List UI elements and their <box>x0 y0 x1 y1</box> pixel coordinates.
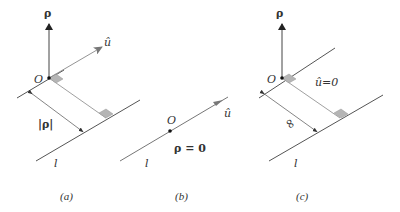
origin-label: O <box>267 73 276 86</box>
distance-label: |ρ| <box>38 118 53 131</box>
origin-point <box>168 129 172 133</box>
line-label: l <box>54 157 58 170</box>
u-label: û <box>104 36 111 49</box>
origin-label: O <box>34 73 43 86</box>
u-label: û <box>224 107 231 120</box>
u-arrow-icon <box>49 47 102 78</box>
caption-b: (b) <box>175 190 188 203</box>
condition-label: û=0 <box>315 76 338 89</box>
rho-label: ρ <box>44 7 51 20</box>
panel-a: ρ û O |ρ| l (a) <box>17 7 140 203</box>
panel-c: ρ O û=0 ∞ l (c) <box>259 7 383 203</box>
perpendicular-line <box>49 78 106 118</box>
right-angle-square-origin <box>49 74 63 83</box>
rho-label: ρ <box>276 7 283 20</box>
caption-a: (a) <box>60 190 73 203</box>
panel-b: O û ρ = 0 l (b) <box>120 97 231 203</box>
line-label: l <box>294 157 298 170</box>
origin-label: O <box>167 114 176 127</box>
origin-point <box>47 76 51 80</box>
line-label: l <box>145 157 149 170</box>
line-representation-diagram: ρ û O |ρ| l (a) O û ρ = 0 l (b) ρ O û=0 … <box>0 0 400 212</box>
origin-point <box>280 76 284 80</box>
caption-c: (c) <box>296 190 309 203</box>
condition-label: ρ = 0 <box>174 142 206 155</box>
